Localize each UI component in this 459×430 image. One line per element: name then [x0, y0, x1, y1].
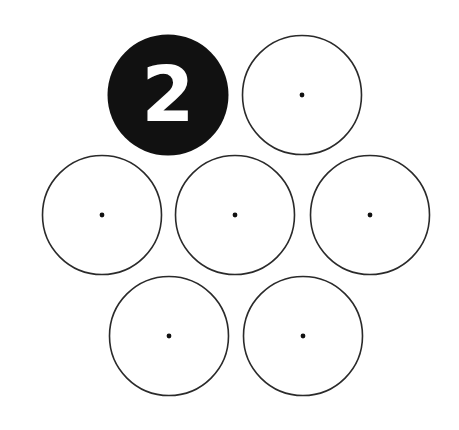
center-dot-icon — [368, 213, 373, 218]
circle-bottom-left — [110, 277, 229, 396]
circle-bottom-right — [244, 277, 363, 396]
center-dot-icon — [301, 334, 306, 339]
circle-top-right — [243, 36, 362, 155]
center-dot-icon — [233, 213, 238, 218]
center-dot-icon — [167, 334, 172, 339]
circle-middle-center — [176, 156, 295, 275]
circle-top-left: 2 — [108, 35, 229, 156]
circle-diagram: 2 — [0, 0, 459, 430]
center-dot-icon — [100, 213, 105, 218]
circle-middle-right — [311, 156, 430, 275]
circle-middle-left — [43, 156, 162, 275]
circle-number-label: 2 — [142, 50, 195, 139]
center-dot-icon — [300, 93, 305, 98]
